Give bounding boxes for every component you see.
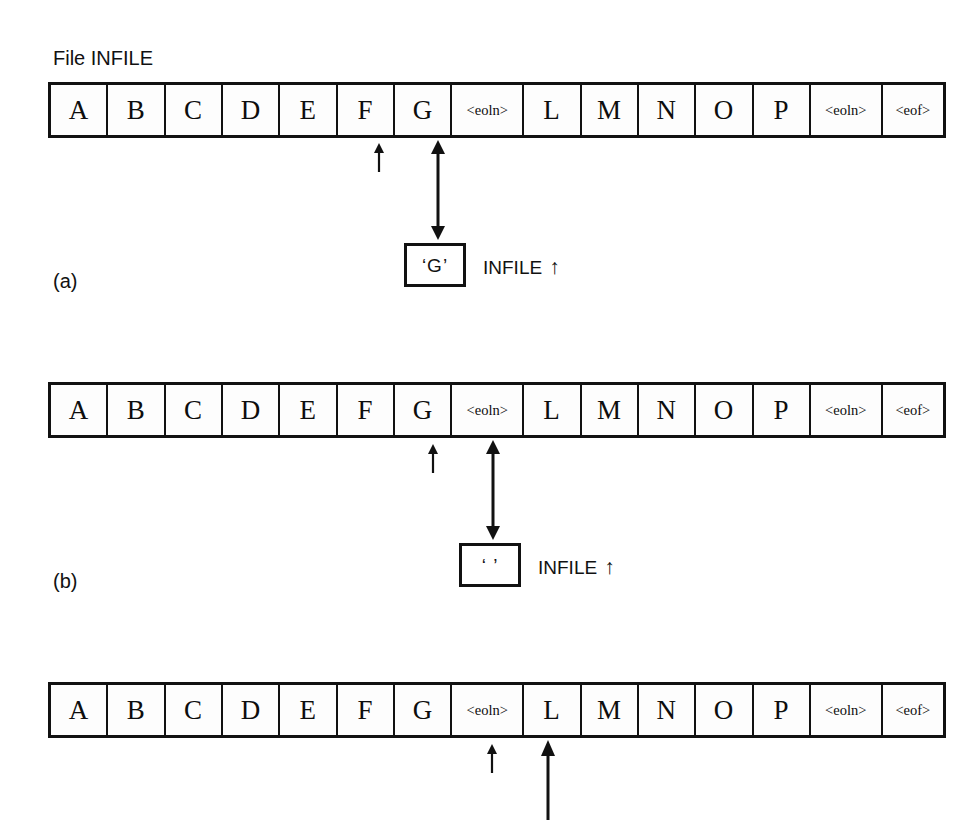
file-cell: F	[338, 685, 395, 735]
file-cell: P	[754, 685, 811, 735]
file-cell: L	[524, 385, 581, 435]
file-cell-letter: G	[413, 697, 433, 724]
file-cell: G	[395, 85, 452, 135]
file-cell: C	[166, 685, 223, 735]
file-cell-letter: C	[184, 397, 203, 424]
file-cell: <eof>	[883, 685, 943, 735]
file-cell: C	[166, 385, 223, 435]
panel-label-b: (b)	[53, 571, 77, 591]
file-cell-token: <eoln>	[467, 403, 508, 418]
file-cell-letter: G	[413, 397, 433, 424]
file-cell-token: <eoln>	[825, 403, 866, 418]
buffer-link-arrow-b	[482, 440, 504, 540]
file-cell-letter: D	[241, 97, 261, 124]
file-cell: L	[524, 685, 581, 735]
file-cell-letter: C	[184, 697, 203, 724]
buffer-pointer-icon-a: ↑	[549, 255, 560, 278]
file-cell: N	[639, 685, 696, 735]
file-cell-token: <eof>	[895, 403, 930, 418]
file-cell-token: <eof>	[895, 103, 930, 118]
file-cell: A	[51, 685, 108, 735]
file-cell-letter: F	[358, 97, 374, 124]
file-cell-letter: E	[299, 97, 316, 124]
file-position-caret-b	[424, 443, 442, 473]
file-cell-letter: B	[127, 697, 146, 724]
buffer-variable-value-b: ‘ ’	[482, 556, 499, 575]
file-cell: D	[223, 85, 280, 135]
file-cell-letter: C	[184, 97, 203, 124]
file-cell-letter: M	[597, 697, 622, 724]
file-cell-letter: L	[543, 697, 560, 724]
file-cell: G	[395, 385, 452, 435]
file-cell-letter: B	[127, 397, 146, 424]
file-cell: A	[51, 85, 108, 135]
file-cell: <eoln>	[452, 685, 524, 735]
file-cell-letter: G	[413, 97, 433, 124]
file-cell: <eoln>	[811, 685, 883, 735]
file-cell-letter: N	[657, 697, 677, 724]
buffer-variable-box-b: ‘ ’	[459, 543, 521, 587]
file-label: File INFILE	[53, 48, 153, 68]
file-cell: B	[108, 385, 165, 435]
file-cell: B	[108, 85, 165, 135]
panel-label-a: (a)	[53, 271, 77, 291]
file-cell: C	[166, 85, 223, 135]
file-tape-c: ABCDEFG<eoln>LMNOP<eoln><eof>	[48, 682, 946, 738]
file-cell: <eof>	[883, 85, 943, 135]
file-cell-token: <eoln>	[825, 103, 866, 118]
buffer-variable-caption-text-b: INFILE	[538, 557, 597, 578]
file-position-caret-c	[483, 743, 501, 773]
buffer-variable-caption-b: INFILE↑	[538, 556, 615, 577]
buffer-link-arrow-c	[537, 740, 559, 820]
file-cell: <eoln>	[452, 385, 524, 435]
buffer-variable-value-a: ‘G’	[422, 256, 448, 275]
file-cell-token: <eof>	[895, 703, 930, 718]
file-cell-letter: P	[773, 397, 789, 424]
file-cell-letter: L	[543, 397, 560, 424]
file-cell: M	[582, 85, 639, 135]
file-cell-letter: P	[773, 97, 789, 124]
buffer-variable-caption-a: INFILE↑	[483, 256, 560, 277]
file-cell: <eoln>	[811, 85, 883, 135]
file-cell: O	[696, 685, 753, 735]
buffer-variable-caption-text-a: INFILE	[483, 257, 542, 278]
file-cell-letter: O	[714, 397, 734, 424]
file-cell-letter: A	[69, 697, 89, 724]
file-cell: <eoln>	[452, 85, 524, 135]
file-cell-letter: D	[241, 397, 261, 424]
file-cell-letter: N	[657, 397, 677, 424]
file-cell: P	[754, 385, 811, 435]
file-cell: F	[338, 385, 395, 435]
buffer-link-arrow-a	[427, 140, 449, 240]
file-cell-letter: E	[299, 397, 316, 424]
file-cell: E	[280, 385, 337, 435]
file-cell: P	[754, 85, 811, 135]
file-cell-letter: E	[299, 697, 316, 724]
file-cell: O	[696, 385, 753, 435]
file-cell: N	[639, 385, 696, 435]
file-cell: L	[524, 85, 581, 135]
file-cell-token: <eoln>	[467, 103, 508, 118]
file-cell: B	[108, 685, 165, 735]
file-cell-letter: M	[597, 97, 622, 124]
file-cell-letter: D	[241, 697, 261, 724]
file-cell-letter: L	[543, 97, 560, 124]
file-cell: N	[639, 85, 696, 135]
file-cell: <eof>	[883, 385, 943, 435]
file-cell: F	[338, 85, 395, 135]
file-cell-letter: F	[358, 697, 374, 724]
file-cell: D	[223, 685, 280, 735]
file-cell-letter: N	[657, 97, 677, 124]
file-cell: A	[51, 385, 108, 435]
file-cell: O	[696, 85, 753, 135]
file-cell: <eoln>	[811, 385, 883, 435]
file-cell: E	[280, 85, 337, 135]
file-cell: M	[582, 385, 639, 435]
file-cell: G	[395, 685, 452, 735]
file-cell-letter: M	[597, 397, 622, 424]
buffer-variable-box-a: ‘G’	[404, 243, 466, 287]
file-tape-b: ABCDEFG<eoln>LMNOP<eoln><eof>	[48, 382, 946, 438]
file-cell-letter: B	[127, 97, 146, 124]
file-cell-letter: O	[714, 697, 734, 724]
